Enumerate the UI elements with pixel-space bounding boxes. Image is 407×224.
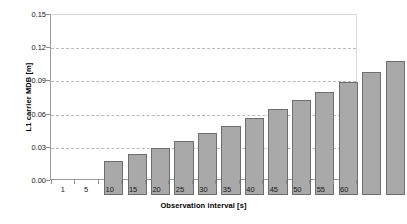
- y-axis-tick-label: 0.09: [20, 76, 46, 85]
- x-axis-tick-label: 45: [270, 185, 278, 194]
- x-axis-tick-mark: [168, 180, 169, 184]
- y-axis-tick-label: 0.15: [20, 10, 46, 19]
- x-axis-tick-mark: [286, 180, 287, 184]
- x-axis-tick-mark: [215, 180, 216, 184]
- bar[interactable]: [386, 61, 405, 195]
- bar-slot: [290, 30, 313, 195]
- x-axis-tick-mark: [262, 180, 263, 184]
- bar-slot: [360, 30, 383, 195]
- x-axis-tick-label: 55: [317, 185, 325, 194]
- bar-slot: [243, 30, 266, 195]
- x-axis-tick-mark: [192, 180, 193, 184]
- y-axis-ticks: 0.000.030.060.090.120.15: [16, 14, 46, 180]
- bar-slot: [219, 30, 242, 195]
- x-axis-tick-mark: [74, 180, 75, 184]
- x-axis-tick-mark: [239, 180, 240, 184]
- bar-slot: [337, 30, 360, 195]
- y-axis-tick-label: 0.00: [20, 176, 46, 185]
- x-axis-tick-mark: [51, 180, 52, 184]
- x-axis-tick-label: 40: [246, 185, 254, 194]
- x-axis-tick-label: 25: [176, 185, 184, 194]
- x-axis-ticks: [50, 180, 357, 184]
- x-axis-tick-label: 60: [340, 185, 348, 194]
- bar[interactable]: [339, 82, 358, 195]
- bar-slot: [384, 30, 407, 195]
- bar-slot: [102, 30, 125, 195]
- bar-slot: [196, 30, 219, 195]
- y-axis-tick-label: 0.06: [20, 109, 46, 118]
- y-axis-tick-label: 0.12: [20, 43, 46, 52]
- x-axis-tick-labels: 151015202530354045505560: [51, 185, 356, 197]
- bar-slot: [125, 30, 148, 195]
- x-axis-tick-mark: [309, 180, 310, 184]
- x-axis-tick-label: 20: [152, 185, 160, 194]
- x-axis-tick-mark: [356, 180, 357, 184]
- bar-slot: [172, 30, 195, 195]
- x-axis-tick-label: 5: [84, 185, 88, 194]
- bar[interactable]: [362, 72, 381, 195]
- bar-slot: [149, 30, 172, 195]
- x-axis-tick-mark: [333, 180, 334, 184]
- x-axis-tick-mark: [98, 180, 99, 184]
- x-axis-tick-mark: [145, 180, 146, 184]
- plot-area: [50, 14, 357, 180]
- x-axis-tick-label: 1: [61, 185, 65, 194]
- x-axis-tick-label: 10: [105, 185, 113, 194]
- x-axis-title: Observation interval [s]: [50, 201, 357, 210]
- x-axis-tick-label: 35: [223, 185, 231, 194]
- x-axis-tick-label: 30: [199, 185, 207, 194]
- y-axis-tick-label: 0.03: [20, 142, 46, 151]
- x-axis-tick-label: 15: [129, 185, 137, 194]
- bar-slot: [266, 30, 289, 195]
- bar-slot: [313, 30, 336, 195]
- bar-series: [102, 30, 407, 195]
- x-axis-tick-mark: [121, 180, 122, 184]
- x-axis-tick-label: 50: [293, 185, 301, 194]
